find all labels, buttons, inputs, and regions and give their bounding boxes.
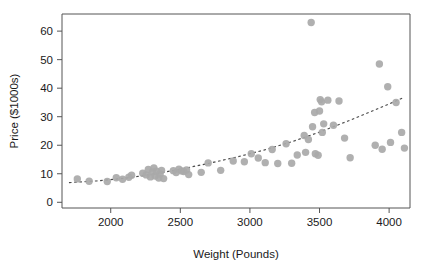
scatter-plot-figure: 0102030405060 20002500300035004000 Weigh…: [0, 0, 430, 270]
data-point: [378, 146, 385, 153]
data-point: [320, 120, 327, 127]
data-point: [392, 99, 399, 106]
data-point: [119, 175, 126, 182]
data-point: [372, 142, 379, 149]
y-axis-tick-marks: [57, 31, 62, 202]
data-point: [217, 167, 224, 174]
x-axis-tick-labels: 20002500300035004000: [98, 216, 402, 228]
data-point: [74, 175, 81, 182]
data-point: [309, 123, 316, 130]
data-point: [316, 107, 323, 114]
data-point: [241, 158, 248, 165]
data-point: [104, 178, 111, 185]
data-point: [282, 140, 289, 147]
data-point: [294, 151, 301, 158]
data-point: [158, 167, 165, 174]
data-point: [341, 134, 348, 141]
chart-canvas: 0102030405060 20002500300035004000 Weigh…: [0, 0, 430, 270]
data-point: [262, 159, 269, 166]
data-point: [204, 159, 211, 166]
data-point: [346, 154, 353, 161]
data-point: [384, 83, 391, 90]
data-point: [160, 175, 167, 182]
y-axis-title: Price ($1000s): [8, 73, 20, 148]
x-tick-label: 2500: [168, 216, 194, 228]
data-point: [255, 154, 262, 161]
y-tick-label: 40: [40, 82, 53, 94]
data-point: [248, 150, 255, 157]
data-point: [330, 122, 337, 129]
data-point: [268, 146, 275, 153]
y-tick-label: 30: [40, 111, 53, 123]
data-point: [376, 60, 383, 67]
data-point: [302, 149, 309, 156]
data-points: [74, 19, 409, 185]
data-point: [85, 177, 92, 184]
data-point: [319, 129, 326, 136]
x-axis-title: Weight (Pounds): [193, 248, 279, 260]
trend-line: [69, 98, 403, 183]
data-point: [307, 19, 314, 26]
data-point: [230, 157, 237, 164]
data-point: [335, 97, 342, 104]
data-point: [387, 139, 394, 146]
y-tick-label: 20: [40, 139, 53, 151]
x-tick-label: 2000: [98, 216, 124, 228]
data-point: [314, 152, 321, 159]
y-tick-label: 60: [40, 25, 53, 37]
data-point: [198, 169, 205, 176]
y-axis-tick-labels: 0102030405060: [40, 25, 53, 208]
x-tick-label: 3500: [307, 216, 333, 228]
data-point: [128, 171, 135, 178]
y-tick-label: 0: [47, 196, 53, 208]
data-point: [185, 171, 192, 178]
x-axis-tick-marks: [111, 208, 389, 213]
data-point: [113, 174, 120, 181]
data-point: [398, 129, 405, 136]
data-point: [401, 144, 408, 151]
data-point: [274, 160, 281, 167]
x-tick-label: 4000: [376, 216, 402, 228]
data-point: [305, 136, 312, 143]
y-tick-label: 50: [40, 54, 53, 66]
data-point: [324, 96, 331, 103]
x-tick-label: 3000: [237, 216, 263, 228]
data-point: [288, 160, 295, 167]
y-tick-label: 10: [40, 168, 53, 180]
data-point: [318, 98, 325, 105]
